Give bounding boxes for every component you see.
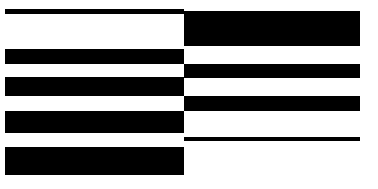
bar-pattern-canvas	[0, 0, 378, 189]
left-bar-4	[5, 111, 184, 133]
left-bar-5	[5, 147, 184, 175]
left-bar-2	[5, 49, 184, 64]
right-bar-1	[184, 11, 360, 46]
right-bar-2	[184, 64, 360, 78]
right-bar-4	[184, 137, 360, 141]
left-bar-1	[5, 9, 184, 14]
right-bar-3	[184, 96, 360, 111]
left-bar-3	[5, 77, 184, 96]
